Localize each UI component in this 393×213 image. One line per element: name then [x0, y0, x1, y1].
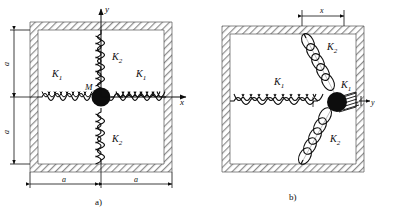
- spring-right-label-b: K1: [340, 79, 351, 93]
- dim-bottom-left-label-a: a: [62, 175, 66, 184]
- spring-right-a: [111, 92, 166, 101]
- spring-bottom-label-a: K2: [111, 133, 123, 147]
- panel-b: y x K1 K1 K2 K2 b): [222, 6, 375, 202]
- spring-bottom-b: [296, 105, 334, 166]
- caption-b: b): [289, 192, 297, 202]
- dim-left-lower-label-a: a: [2, 130, 11, 134]
- panel-a: y x K1 K1 K2 K2 M: [2, 4, 186, 207]
- dim-bottom-right-label-a: a: [134, 175, 138, 184]
- caption-a: a): [95, 197, 102, 207]
- spring-right-label-a: K1: [135, 68, 146, 82]
- mass-b: [327, 92, 347, 112]
- mass-label-a: M: [84, 82, 93, 92]
- dim-left-upper-label-a: a: [2, 62, 11, 66]
- spring-top-label-a: K2: [111, 51, 123, 65]
- spring-left-b: [230, 94, 323, 107]
- spring-bottom-a: [96, 108, 105, 164]
- axis-x-label-a: x: [179, 97, 184, 107]
- spring-bottom-label-b: K2: [329, 133, 341, 147]
- dim-top-x-label-b: x: [319, 6, 324, 15]
- spring-left-label-a: K1: [51, 68, 62, 82]
- axis-y-b: [359, 96, 370, 106]
- spring-left-coils-a: [42, 92, 92, 98]
- spring-top-a: [96, 30, 105, 92]
- spring-top-label-b: K2: [326, 41, 338, 55]
- spring-mass-figure: y x K1 K1 K2 K2 M: [0, 0, 393, 213]
- axis-y-label-b: y: [370, 98, 375, 107]
- spring-left-label-b: K1: [273, 76, 284, 90]
- axis-y-label-a: y: [104, 4, 109, 14]
